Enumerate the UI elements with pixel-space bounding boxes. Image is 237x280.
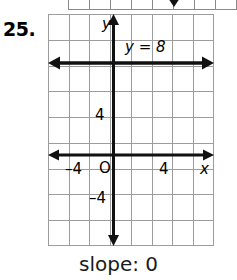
arrow-right-icon — [202, 57, 214, 70]
coordinate-graph: y x y = 8 4 –4 –4 4 O — [48, 14, 214, 246]
grid-line-vertical — [236, 0, 237, 10]
x-tick-label-negative-4: –4 — [65, 162, 82, 177]
answer-slope: slope: 0 — [0, 252, 237, 276]
arrow-left-icon — [48, 57, 60, 70]
grid-line-vertical — [110, 0, 111, 10]
grid-line-vertical — [68, 0, 69, 10]
grid-line-vertical — [89, 0, 90, 10]
arrow-down-icon — [168, 0, 180, 7]
grid-line-vertical — [152, 0, 153, 10]
x-tick-label-4: 4 — [159, 162, 169, 177]
grid-line-vertical — [215, 0, 216, 10]
origin-label: O — [99, 161, 111, 176]
previous-figure-grid-fragment — [68, 0, 237, 10]
problem-number: 25. — [3, 18, 35, 40]
y-tick-label-4: 4 — [95, 108, 105, 123]
y-axis-label: y — [102, 17, 111, 32]
x-axis-label: x — [200, 162, 209, 177]
equation-label: y = 8 — [125, 40, 166, 55]
grid-line-vertical — [194, 0, 195, 10]
grid-line-vertical — [131, 0, 132, 10]
y-tick-label-negative-4: –4 — [89, 191, 106, 206]
